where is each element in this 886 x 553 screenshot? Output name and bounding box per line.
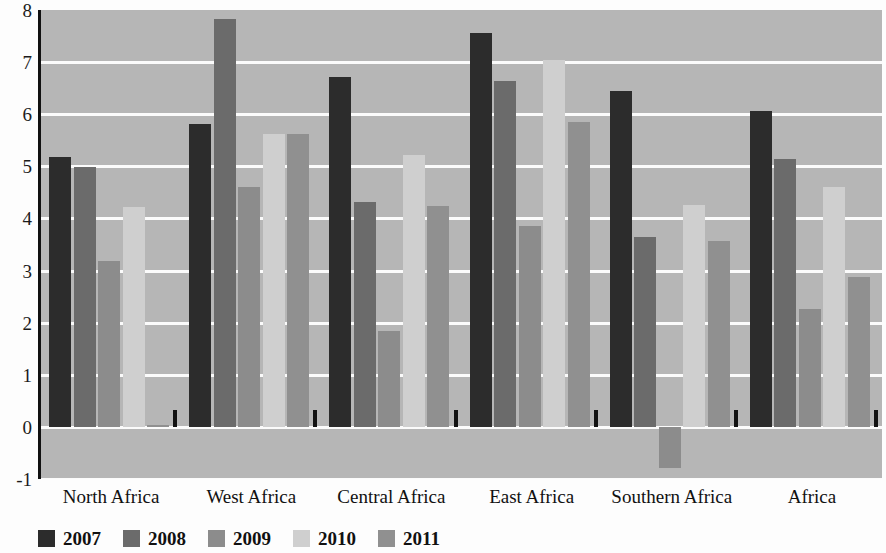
y-axis-tick-labels: 876543210-1 <box>0 0 36 480</box>
bar-2010-west-africa[interactable] <box>263 134 285 427</box>
bar-2011-africa[interactable] <box>848 277 870 427</box>
legend-item-2009[interactable]: 2009 <box>208 529 271 548</box>
bar-2008-west-africa[interactable] <box>214 19 236 427</box>
x-axis-category-label: Africa <box>742 483 882 513</box>
bar-2010-southern-africa[interactable] <box>683 205 705 426</box>
y-axis-tick-label: 6 <box>23 105 33 124</box>
y-axis-tick-label: 0 <box>23 417 33 436</box>
bar-2010-central-africa[interactable] <box>403 155 425 427</box>
legend-label: 2007 <box>63 529 101 548</box>
bar-2009-east-africa[interactable] <box>519 226 541 427</box>
bar-2007-east-africa[interactable] <box>470 33 492 426</box>
x-axis-tick <box>173 410 177 427</box>
y-axis-tick-label: 3 <box>23 261 33 280</box>
legend-label: 2008 <box>148 529 186 548</box>
legend-label: 2011 <box>403 529 440 548</box>
bar-2011-central-africa[interactable] <box>427 206 449 427</box>
y-axis-tick-label: 7 <box>23 53 33 72</box>
y-axis-tick-label: 1 <box>23 365 33 384</box>
x-axis-tick <box>874 410 878 427</box>
y-axis-tick-label: 5 <box>23 157 33 176</box>
legend-swatch-icon <box>293 530 310 547</box>
legend-swatch-icon <box>123 530 140 547</box>
bar-2008-central-africa[interactable] <box>354 202 376 427</box>
x-axis-category-label: East Africa <box>462 483 602 513</box>
legend-item-2007[interactable]: 2007 <box>38 529 101 548</box>
bar-2009-africa[interactable] <box>799 309 821 427</box>
bar-group <box>321 10 461 479</box>
bar-2007-central-africa[interactable] <box>329 77 351 427</box>
chart-legend: 20072008200920102011 <box>38 526 462 550</box>
bar-2008-africa[interactable] <box>774 159 796 427</box>
x-axis-category-label: Southern Africa <box>602 483 742 513</box>
bar-2007-west-africa[interactable] <box>189 124 211 427</box>
x-axis-tick <box>313 410 317 427</box>
x-axis-tick <box>454 410 458 427</box>
bar-2010-north-africa[interactable] <box>123 207 145 427</box>
legend-swatch-icon <box>208 530 225 547</box>
x-axis-category-labels: North AfricaWest AfricaCentral AfricaEas… <box>41 483 882 513</box>
grouped-bar-chart: 876543210-1 North AfricaWest AfricaCentr… <box>0 0 886 553</box>
y-axis-tick-label: 8 <box>23 1 33 20</box>
legend-swatch-icon <box>38 530 55 547</box>
bar-2009-north-africa[interactable] <box>98 261 120 427</box>
plot-area <box>41 10 882 479</box>
y-axis-tick-label: 2 <box>23 313 33 332</box>
bar-2008-east-africa[interactable] <box>494 81 516 427</box>
legend-label: 2009 <box>233 529 271 548</box>
bar-2008-southern-africa[interactable] <box>634 237 656 427</box>
legend-item-2008[interactable]: 2008 <box>123 529 186 548</box>
bar-group <box>602 10 742 479</box>
chart-root: 876543210-1 North AfricaWest AfricaCentr… <box>0 0 886 553</box>
x-axis-tick <box>734 410 738 427</box>
bar-2008-north-africa[interactable] <box>74 167 96 427</box>
legend-item-2010[interactable]: 2010 <box>293 529 356 548</box>
bar-group <box>41 10 181 479</box>
bar-2007-southern-africa[interactable] <box>610 91 632 427</box>
bar-group <box>462 10 602 479</box>
legend-swatch-icon <box>378 530 395 547</box>
bar-2007-north-africa[interactable] <box>49 157 71 427</box>
bar-2011-west-africa[interactable] <box>287 134 309 427</box>
y-axis-tick-label: 4 <box>23 209 33 228</box>
bar-2007-africa[interactable] <box>750 111 772 427</box>
bar-group <box>742 10 882 479</box>
bar-2011-southern-africa[interactable] <box>708 241 730 427</box>
bar-groups <box>41 10 882 479</box>
bar-2009-west-africa[interactable] <box>238 187 260 427</box>
bar-2010-africa[interactable] <box>823 187 845 427</box>
legend-label: 2010 <box>318 529 356 548</box>
x-axis-tick <box>594 410 598 427</box>
bar-2009-central-africa[interactable] <box>378 331 400 427</box>
x-axis-category-label: Central Africa <box>321 483 461 513</box>
bar-2011-north-africa[interactable] <box>147 425 169 427</box>
x-axis-category-label: North Africa <box>41 483 181 513</box>
bar-group <box>181 10 321 479</box>
legend-item-2011[interactable]: 2011 <box>378 529 440 548</box>
bar-2011-east-africa[interactable] <box>568 122 590 427</box>
y-axis-tick-label: -1 <box>16 470 32 489</box>
bar-2010-east-africa[interactable] <box>543 60 565 427</box>
x-axis-category-label: West Africa <box>181 483 321 513</box>
bar-2009-southern-africa[interactable] <box>659 427 681 468</box>
